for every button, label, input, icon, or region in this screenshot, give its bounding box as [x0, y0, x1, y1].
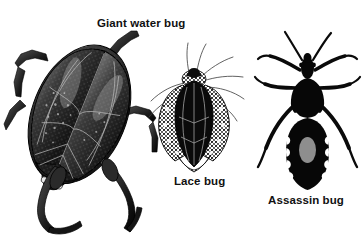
assassin-bug-drawing	[255, 32, 360, 190]
label-giant-water-bug: Giant water bug	[97, 17, 185, 30]
lace-bug-drawing	[149, 43, 244, 172]
figure-assassin-bug	[252, 26, 363, 194]
assassin-bug-head	[299, 53, 316, 79]
assassin-bug-abdominal-spot	[299, 137, 316, 163]
assassin-bug-pronotum	[291, 78, 324, 118]
insect-illustration-plate: Giant water bug Lace bug Assassin bug	[0, 0, 363, 237]
figure-lace-bug	[143, 33, 251, 173]
label-lace-bug: Lace bug	[174, 175, 225, 188]
giant-water-bug-drawing	[4, 30, 158, 234]
label-assassin-bug: Assassin bug	[268, 194, 344, 207]
